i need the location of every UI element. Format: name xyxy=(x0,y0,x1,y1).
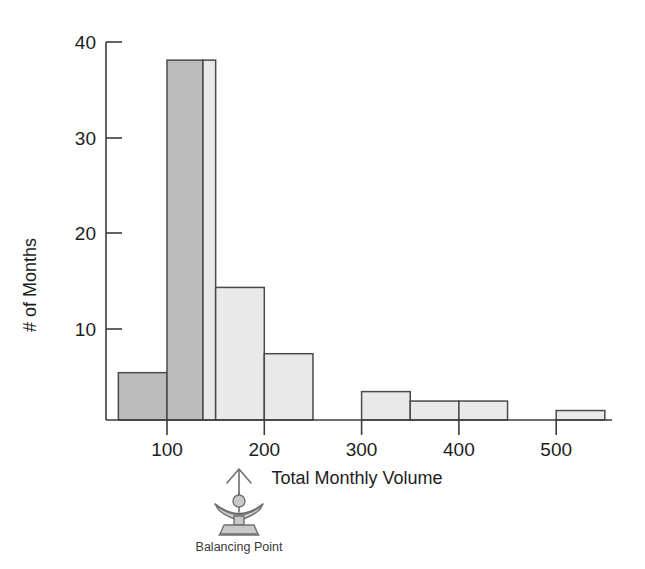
x-tick-label-400: 400 xyxy=(443,439,475,460)
chart-canvas: # of Months 40 30 20 10 100200300400500 … xyxy=(0,0,645,569)
x-tick-label-100: 100 xyxy=(151,439,183,460)
bin-100-137 xyxy=(167,60,203,420)
fulcrum-stem-icon xyxy=(234,516,244,525)
x-tick-label-500: 500 xyxy=(540,439,572,460)
y-axis-title: # of Months xyxy=(20,238,40,332)
pivot-ball-icon xyxy=(233,492,245,512)
bin-200-250 xyxy=(264,354,313,420)
balancing-point-annotation: Balancing Point xyxy=(196,469,283,554)
bin-500-550 xyxy=(556,411,605,420)
x-axis-ticks xyxy=(167,420,556,435)
y-tick-label-30: 30 xyxy=(75,128,96,149)
bin-400-450 xyxy=(459,401,508,420)
y-axis-tick-labels: 40 30 20 10 xyxy=(75,32,96,340)
bars-group xyxy=(118,60,605,420)
y-axis-ticks xyxy=(106,42,122,329)
bin-350-400 xyxy=(410,401,459,420)
bin-300-350 xyxy=(362,392,411,420)
y-tick-label-40: 40 xyxy=(75,32,96,53)
x-tick-label-200: 200 xyxy=(248,439,280,460)
y-tick-label-10: 10 xyxy=(75,319,96,340)
bin-150-200 xyxy=(216,287,265,420)
balancing-point-label: Balancing Point xyxy=(196,540,283,554)
histogram-chart: # of Months 40 30 20 10 100200300400500 … xyxy=(0,0,645,569)
fulcrum-base-icon xyxy=(220,525,258,534)
x-axis-title: Total Monthly Volume xyxy=(271,468,442,488)
x-axis-tick-labels: 100200300400500 xyxy=(151,439,572,460)
x-tick-label-300: 300 xyxy=(346,439,378,460)
bin-137-150 xyxy=(203,60,216,420)
bin-50-100 xyxy=(118,373,167,420)
y-tick-label-20: 20 xyxy=(75,223,96,244)
